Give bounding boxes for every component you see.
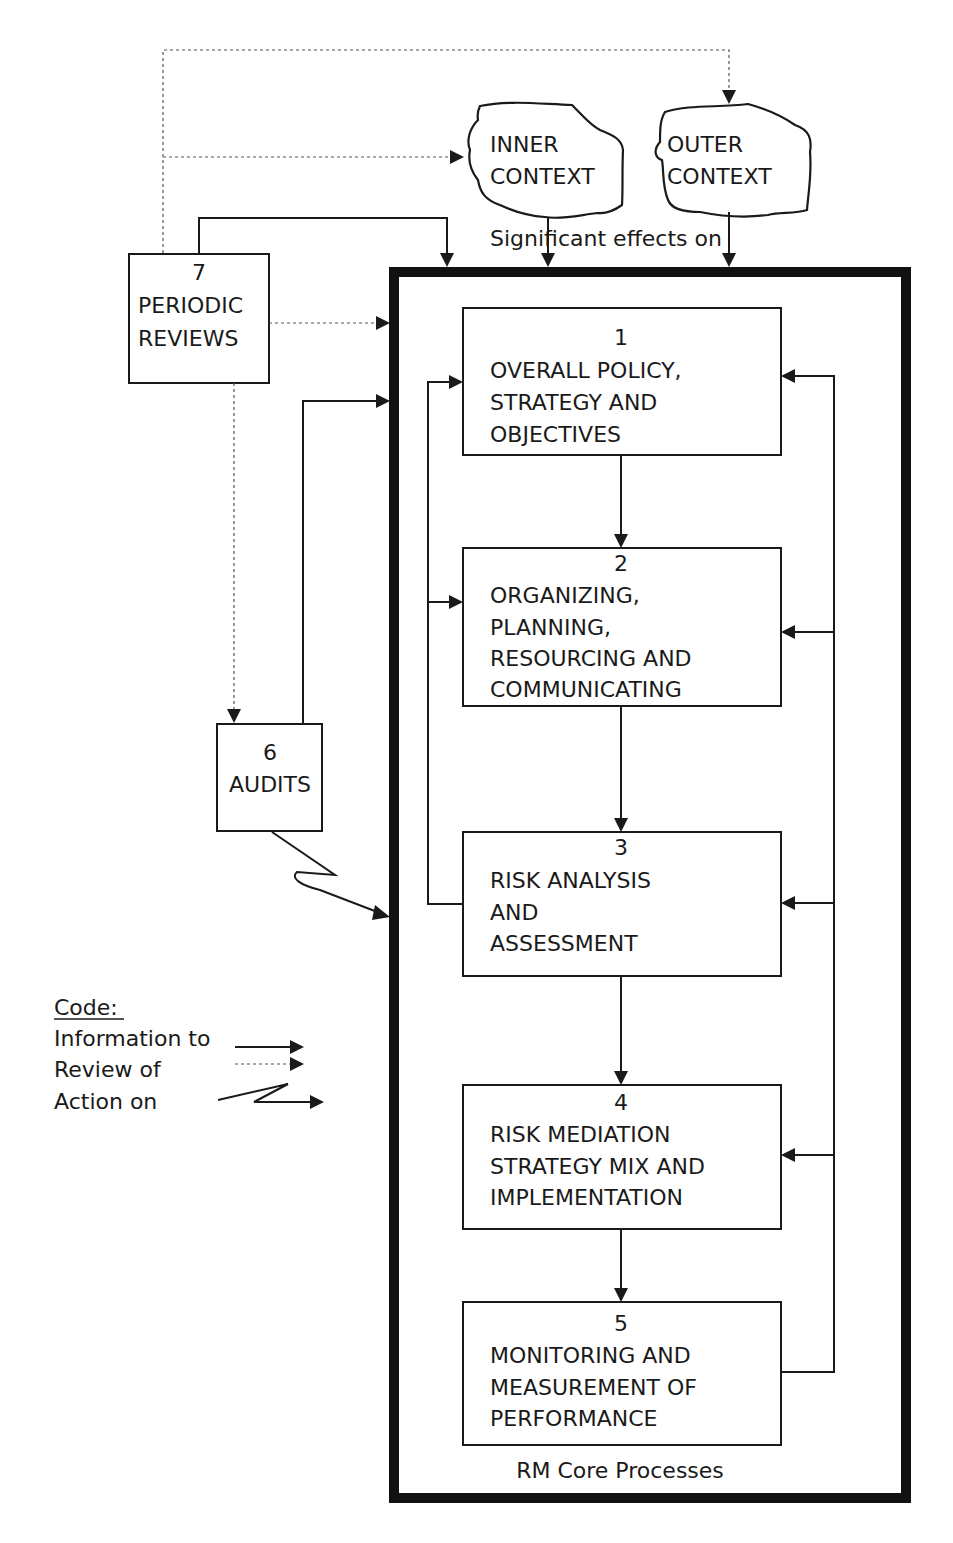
legend-dotted-arrow-icon [235, 1057, 304, 1071]
inner-context-line2: CONTEXT [490, 164, 595, 189]
audits-number: 6 [263, 740, 277, 765]
outer-context-line1: OUTER [667, 132, 743, 157]
periodic-reviews-box: 7 PERIODIC REVIEWS [129, 254, 269, 383]
core-box-4-line3: IMPLEMENTATION [490, 1185, 683, 1210]
rm-diagram: INNER CONTEXT OUTER CONTEXT Significant … [0, 0, 953, 1543]
periodic-reviews-number: 7 [192, 260, 206, 285]
core-box-2-line2: PLANNING, [490, 615, 611, 640]
core-processes-label: RM Core Processes [516, 1458, 724, 1483]
core-box-4-number: 4 [614, 1090, 628, 1115]
inner-context-line1: INNER [490, 132, 559, 157]
core-box-2: 2 ORGANIZING, PLANNING, RESOURCING AND C… [463, 548, 781, 706]
core-box-3: 3 RISK ANALYSIS AND ASSESSMENT [463, 832, 781, 976]
core-box-5-line2: MEASUREMENT OF [490, 1375, 697, 1400]
core-box-2-number: 2 [614, 551, 628, 576]
outer-context-cloud: OUTER CONTEXT [656, 104, 811, 216]
legend-item-information: Information to [54, 1026, 210, 1051]
periodic-reviews-line1: PERIODIC [138, 293, 243, 318]
legend-zigzag-arrow-icon [218, 1084, 324, 1109]
audits-box: 6 AUDITS [217, 724, 322, 831]
right-feedback-loop [781, 369, 834, 1372]
core-box-3-line3: ASSESSMENT [490, 931, 638, 956]
significant-effects-label: Significant effects on [490, 226, 722, 251]
core-box-1-number: 1 [614, 325, 628, 350]
core-box-3-line2: AND [490, 900, 538, 925]
legend-item-review: Review of [54, 1057, 162, 1082]
left-feedback-loop [428, 375, 463, 904]
review-loop-outer [163, 50, 736, 253]
audits-line1: AUDITS [229, 772, 311, 797]
core-box-5-number: 5 [614, 1311, 628, 1336]
audits-to-core-action-arrow [272, 832, 390, 920]
reviews-to-core-review-arrow [269, 316, 390, 330]
core-box-2-line4: COMMUNICATING [490, 677, 682, 702]
core-box-3-line1: RISK ANALYSIS [490, 868, 651, 893]
periodic-reviews-line2: REVIEWS [138, 326, 238, 351]
outer-context-line2: CONTEXT [667, 164, 772, 189]
legend-solid-arrow-icon [235, 1040, 304, 1054]
audits-to-core-info-arrow [303, 394, 390, 723]
core-box-1-line1: OVERALL POLICY, [490, 358, 682, 383]
legend-title: Code: [54, 995, 118, 1020]
core-box-1-line2: STRATEGY AND [490, 390, 657, 415]
core-box-4-line2: STRATEGY MIX AND [490, 1154, 705, 1179]
core-box-2-line1: ORGANIZING, [490, 583, 640, 608]
core-box-1-line3: OBJECTIVES [490, 422, 621, 447]
legend: Code: Information to Review of Action on [54, 995, 324, 1114]
review-loop-inner [163, 150, 464, 164]
core-box-5: 5 MONITORING AND MEASUREMENT OF PERFORMA… [463, 1302, 781, 1445]
reviews-to-audits-arrow [227, 383, 241, 723]
core-box-3-number: 3 [614, 835, 628, 860]
core-box-5-line1: MONITORING AND [490, 1343, 691, 1368]
legend-item-action: Action on [54, 1089, 157, 1114]
core-box-5-line3: PERFORMANCE [490, 1406, 657, 1431]
core-box-4-line1: RISK MEDIATION [490, 1122, 671, 1147]
core-box-4: 4 RISK MEDIATION STRATEGY MIX AND IMPLEM… [463, 1085, 781, 1229]
inner-context-cloud: INNER CONTEXT [468, 103, 623, 218]
core-box-1: 1 OVERALL POLICY, STRATEGY AND OBJECTIVE… [463, 308, 781, 455]
core-box-2-line3: RESOURCING AND [490, 646, 692, 671]
